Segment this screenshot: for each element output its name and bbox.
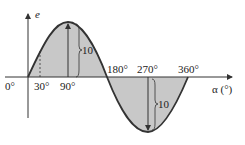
tick-label-270: 270°: [137, 63, 158, 75]
negative-amplitude-label: 10: [158, 98, 170, 110]
sine-wave-diagram: e 10 10 0° 30° 90° 180° 270° 360° α (°): [0, 0, 245, 145]
y-axis-label: e: [35, 8, 40, 20]
x-axis-label: α (°): [212, 83, 233, 96]
tick-label-0: 0°: [5, 80, 15, 92]
positive-amplitude-label: 10: [82, 44, 94, 56]
tick-label-30: 30°: [34, 80, 49, 92]
tick-label-360: 360°: [178, 63, 199, 75]
tick-label-180: 180°: [107, 63, 128, 75]
tick-label-90: 90°: [60, 80, 75, 92]
